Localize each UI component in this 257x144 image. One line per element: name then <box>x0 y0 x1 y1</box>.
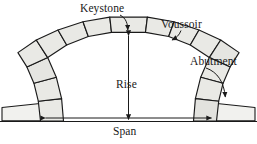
arch-diagram: Keystone Voussoir Abutment Rise Span <box>0 0 257 144</box>
keystone <box>110 17 148 32</box>
keystone-label: Keystone <box>80 3 124 15</box>
voussoir-7 <box>83 17 112 36</box>
rise-label: Rise <box>116 79 137 91</box>
arch-drawing <box>0 0 257 144</box>
abutment-label: Abutment <box>190 56 237 68</box>
span-label: Span <box>113 126 136 138</box>
voussoir-label: Voussoir <box>161 19 202 31</box>
